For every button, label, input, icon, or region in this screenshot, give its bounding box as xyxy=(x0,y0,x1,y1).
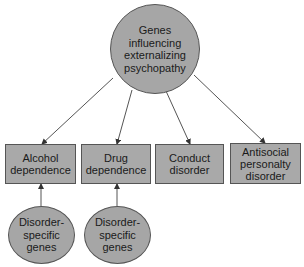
disorder-label: Conduct disorder xyxy=(169,152,210,176)
arrow-to-drug xyxy=(117,90,132,144)
root-genes-node: Genes influencing externalizing psychopa… xyxy=(110,4,200,94)
arrow-to-conduct xyxy=(166,91,190,144)
disorder-box-alcohol: Alcohol dependence xyxy=(5,144,76,184)
specific-genes-node-alcohol: Disorder- specific genes xyxy=(8,206,75,264)
root-genes-label: Genes influencing externalizing psychopa… xyxy=(124,24,186,74)
specific-genes-node-drug: Disorder- specific genes xyxy=(84,206,151,264)
disorder-label: Antisocial personalty disorder xyxy=(240,146,291,182)
disorder-box-antisocial: Antisocial personalty disorder xyxy=(230,143,301,184)
specific-genes-label: Disorder- specific genes xyxy=(19,216,64,254)
disorder-label: Alcohol dependence xyxy=(10,152,71,176)
disorder-box-conduct: Conduct disorder xyxy=(155,144,224,184)
arrow-to-alcohol xyxy=(42,78,113,144)
arrow-to-antisocial xyxy=(194,75,265,143)
disorder-label: Drug dependence xyxy=(86,152,147,176)
specific-genes-label: Disorder- specific genes xyxy=(95,216,140,254)
disorder-box-drug: Drug dependence xyxy=(81,144,151,184)
